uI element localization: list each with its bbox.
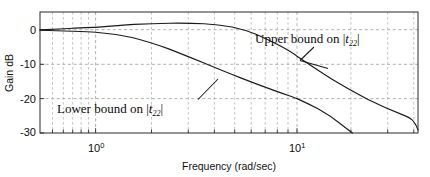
x-tick-label-10: 101 [289,141,305,155]
annotation-lower-bound: Lower bound on |t22| [57,101,163,118]
x-tick-1-mantissa: 10 [289,142,301,154]
upper-annot-prefix: Upper bound on | [255,31,345,46]
upper-annot-suffix: | [357,31,360,46]
y-tick-label-minus30: -30 [20,126,36,138]
upper-annot-subscript: 22 [349,39,357,48]
x-tick-label-1: 100 [88,141,104,155]
svg-text:Lower bound on |t22|: Lower bound on |t22| [57,101,163,118]
svg-text:Upper bound on |t22|: Upper bound on |t22| [255,31,360,48]
y-tick-label-0: 0 [30,24,36,36]
y-tick-label-minus10: -10 [20,58,36,70]
x-tick-0-exponent: 0 [100,141,104,150]
x-axis-title: Frequency (rad/sec) [182,160,276,172]
y-tick-label-minus20: -20 [20,93,36,105]
lower-annot-suffix: | [160,101,163,116]
y-axis-tick-labels: 0 -10 -20 -30 [20,24,36,139]
annotation-upper-bound: Upper bound on |t22| [255,31,360,48]
plot-canvas: Upper bound on |t22| Lower bound on |t22… [0,0,430,177]
x-tick-0-mantissa: 10 [88,142,100,154]
lower-annot-subscript: 22 [152,109,160,118]
lower-annot-prefix: Lower bound on | [57,101,149,116]
y-axis-title: Gain dB [3,54,15,92]
x-tick-1-exponent: 1 [301,141,305,150]
bode-magnitude-plot-figure: Upper bound on |t22| Lower bound on |t22… [0,0,430,177]
x-axis-tick-labels: 100 101 [88,141,305,155]
